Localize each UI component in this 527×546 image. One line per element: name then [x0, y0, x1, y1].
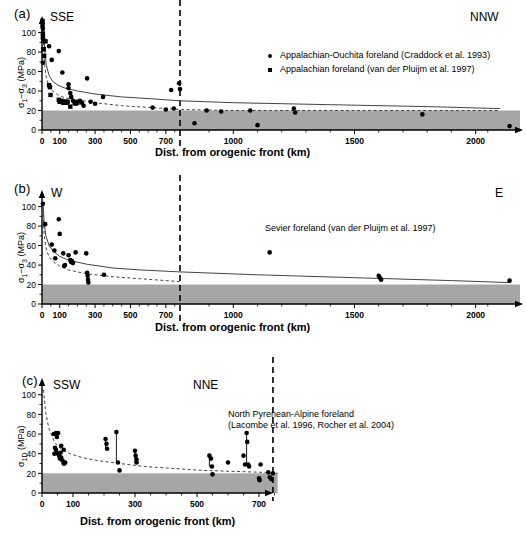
data-point-circle-b	[71, 261, 76, 266]
data-point-circle-c	[209, 456, 214, 461]
y-tick-label-b: 80	[27, 221, 37, 231]
data-point-square-a	[42, 47, 46, 51]
source-note-c: North Pyrenean-Alpine foreland (Lacombe …	[228, 409, 394, 431]
data-point-circle-b	[43, 222, 48, 227]
x-tick-label-b: 300	[88, 310, 102, 320]
data-point-circle-b	[66, 253, 71, 258]
data-point-circle-a	[169, 88, 174, 93]
y-axis-title-a: σ1–σ3 (MPa)	[16, 57, 28, 108]
data-point-circle-b	[84, 251, 89, 256]
y-tick-label-c: 100	[22, 390, 36, 400]
data-point-square-a	[48, 93, 52, 97]
data-point-circle-a	[172, 106, 177, 111]
data-point-square-a	[42, 54, 46, 58]
x-tick-label-b: 0	[40, 310, 45, 320]
x-tick-label-c: 500	[190, 499, 204, 509]
panel-label-b: (b)	[14, 181, 31, 196]
data-point-circle-c	[245, 440, 250, 445]
y-axis-title-b: σ1–σ3 (MPa)	[16, 232, 28, 283]
data-point-circle-c	[55, 435, 60, 440]
data-point-circle-c	[56, 431, 61, 436]
y-tick-label-a: 40	[27, 86, 37, 96]
data-point-square-a	[43, 39, 47, 43]
data-point-circle-c	[226, 460, 231, 465]
data-point-circle-b	[53, 256, 58, 261]
x-axis-title-b: Dist. from orogenic front (km)	[155, 321, 310, 333]
data-point-circle-b	[267, 250, 272, 255]
data-point-circle-a	[177, 81, 182, 86]
data-point-circle-c	[258, 462, 263, 467]
data-point-circle-b	[73, 250, 78, 255]
data-point-circle-a	[248, 108, 253, 113]
shaded-stress-band-a	[42, 111, 520, 130]
data-point-circle-c	[271, 471, 276, 476]
data-point-circle-a	[293, 110, 298, 115]
data-point-circle-b	[57, 232, 62, 237]
fit-curve-dashed-b	[43, 214, 180, 281]
data-point-circle-a	[255, 123, 260, 128]
data-point-circle-a	[192, 121, 197, 126]
data-point-circle-a	[507, 124, 512, 129]
x-axis-title-c: Dist. from orogenic front (km)	[80, 515, 235, 527]
y-axis-title-c: σ1D (MPa)	[16, 425, 28, 467]
data-point-circle-a	[66, 86, 71, 91]
x-axis-title-a: Dist. from orogenic front (km)	[155, 146, 310, 158]
data-point-circle-c	[133, 453, 138, 458]
data-point-square-a	[65, 100, 69, 104]
data-point-circle-c	[133, 448, 138, 453]
data-point-circle-c	[247, 464, 252, 469]
x-tick-label-b: 1000	[224, 310, 243, 320]
data-point-circle-b	[41, 201, 46, 206]
data-point-circle-c	[105, 446, 110, 451]
data-point-square-a	[40, 19, 44, 23]
data-point-circle-c	[114, 430, 119, 435]
data-point-circle-b	[86, 280, 91, 285]
direction-label-left-b: W	[51, 186, 62, 200]
x-tick-label-c: 0	[40, 499, 45, 509]
data-point-circle-a	[164, 107, 169, 112]
data-point-square-a	[40, 24, 44, 28]
x-tick-label-b: 700	[159, 310, 173, 320]
data-point-circle-a	[57, 49, 62, 54]
x-tick-label-b: 100	[53, 310, 67, 320]
x-tick-label-a: 100	[53, 136, 67, 146]
source-note-b: Sevier foreland (van der Pluijm et al. 1…	[265, 223, 436, 234]
data-point-circle-a	[420, 112, 425, 117]
y-tick-label-b: 60	[27, 241, 37, 251]
data-point-circle-a	[85, 76, 90, 81]
y-tick-label-b: 40	[27, 260, 37, 270]
x-tick-label-a: 1500	[345, 136, 364, 146]
x-tick-label-a: 300	[88, 136, 102, 146]
x-tick-label-b: 1500	[345, 310, 364, 320]
legend-marker-square-a	[268, 68, 272, 72]
shaded-stress-band-b	[42, 285, 520, 304]
data-point-circle-a	[93, 101, 98, 106]
data-point-circle-c	[134, 460, 139, 465]
x-tick-label-b: 500	[123, 310, 137, 320]
panel-label-a: (a)	[14, 6, 31, 21]
y-tick-label-a: 80	[27, 47, 37, 57]
data-point-circle-a	[178, 87, 183, 92]
x-tick-label-c: 300	[128, 499, 142, 509]
legend-label-a: Appalachian foreland (van der Pluijm et …	[280, 64, 475, 74]
data-point-circle-b	[102, 272, 107, 277]
data-point-circle-b	[63, 263, 68, 268]
direction-label-right-c: NNE	[193, 378, 218, 392]
data-point-circle-c	[59, 444, 64, 449]
data-point-circle-c	[103, 437, 108, 442]
shaded-stress-band-c	[42, 473, 278, 493]
data-point-square-a	[48, 85, 52, 89]
data-point-circle-c	[241, 453, 246, 458]
data-point-circle-c	[104, 442, 109, 447]
y-tick-label-a: 100	[22, 28, 36, 38]
direction-label-right-a: NNW	[470, 10, 499, 24]
y-tick-label-b: 100	[22, 202, 36, 212]
x-tick-label-a: 500	[123, 136, 137, 146]
panel-a: 0204060801000100300500700100015002000(a)…	[0, 0, 527, 175]
data-point-circle-c	[61, 447, 66, 452]
legend-marker-circle-a	[268, 54, 272, 58]
data-point-circle-c	[210, 472, 215, 477]
x-tick-label-a: 2000	[466, 136, 485, 146]
y-tick-label-a: 0	[31, 125, 36, 135]
data-point-square-a	[41, 31, 45, 35]
